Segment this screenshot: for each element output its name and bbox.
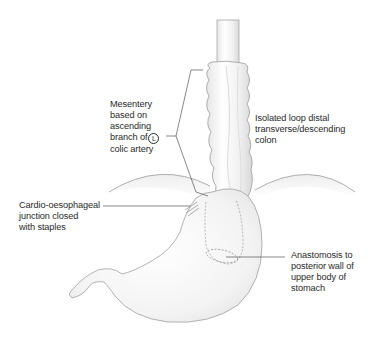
- mesentery-line-3: ascending: [110, 121, 159, 132]
- mesentery-line-5: colic artery: [110, 144, 159, 155]
- anastomosis-line-3: upper body of: [291, 272, 354, 283]
- mesentery-line-4-prefix: branch of: [110, 132, 147, 142]
- isolated-loop-line-1: Isolated loop distal: [255, 113, 345, 124]
- cardio-junction-line-3: with staples: [19, 222, 100, 233]
- diaphragm-right: [255, 174, 355, 198]
- anastomosis-line-2: posterior wall of: [291, 261, 354, 272]
- cardio-junction-line-2: junction closed: [19, 211, 100, 222]
- label-anastomosis: Anastomosis to posterior wall of upper b…: [291, 250, 354, 294]
- label-cardio-junction: Cardio-oesophageal junction closed with …: [19, 200, 100, 233]
- colon-loop: [207, 61, 253, 200]
- anastomosis-line-1: Anastomosis to: [291, 250, 354, 261]
- left-circled-symbol: L: [148, 133, 159, 144]
- mesentery-line-2: based on: [110, 110, 159, 121]
- label-isolated-loop: Isolated loop distal transverse/descendi…: [255, 113, 345, 146]
- label-mesentery: Mesentery based on ascending branch ofL …: [110, 99, 159, 155]
- isolated-loop-line-3: colon: [255, 135, 345, 146]
- mesentery-line-4: branch ofL: [110, 132, 159, 144]
- cardio-junction-line-1: Cardio-oesophageal: [19, 200, 100, 211]
- anastomosis-line-4: stomach: [291, 283, 354, 294]
- diaphragm-left: [109, 174, 210, 200]
- mesentery-line-1: Mesentery: [110, 99, 159, 110]
- diagram-canvas: Mesentery based on ascending branch ofL …: [0, 0, 373, 341]
- isolated-loop-line-2: transverse/descending: [255, 124, 345, 135]
